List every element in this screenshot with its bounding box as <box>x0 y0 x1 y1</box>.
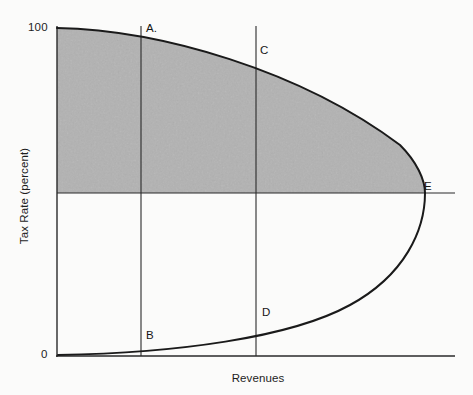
point-label-c: C <box>260 44 269 56</box>
x-axis-title: Revenues <box>0 372 473 384</box>
point-label-b: B <box>146 329 154 341</box>
y-tick-label-0: 0 <box>41 348 48 360</box>
shaded-revenue-region <box>50 20 435 200</box>
y-axis-title: Tax Rate (percent) <box>18 136 30 256</box>
point-label-e: E <box>424 180 432 192</box>
point-label-a: A. <box>146 22 157 34</box>
y-tick-label-100: 100 <box>28 21 48 33</box>
laffer-curve-plot <box>0 0 473 395</box>
point-label-d: D <box>262 306 271 318</box>
laffer-curve-figure: 100 0 Tax Rate (percent) Revenues A. C E… <box>0 0 473 395</box>
laffer-curve-lower-branch <box>58 193 425 355</box>
